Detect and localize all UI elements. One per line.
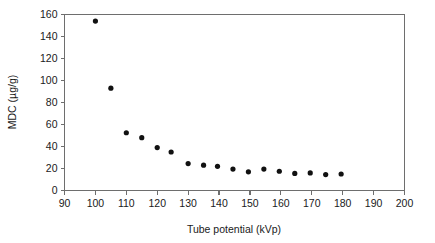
y-tick-label: 120: [40, 52, 58, 64]
scatter-chart: 020406080100120140160 901001101201301401…: [0, 0, 435, 243]
data-point: [308, 170, 313, 175]
x-tick-label: 190: [365, 197, 383, 209]
data-point: [155, 145, 160, 150]
y-tick-label: 0: [52, 184, 58, 196]
x-axis-title: Tube potential (kVp): [187, 223, 281, 235]
data-point: [108, 86, 113, 91]
data-point: [323, 172, 328, 177]
x-tick-label: 180: [334, 197, 352, 209]
y-tick-label: 160: [40, 8, 58, 20]
x-tick-label: 120: [148, 197, 166, 209]
x-tick-label: 130: [179, 197, 197, 209]
x-tick-label: 170: [303, 197, 321, 209]
data-points-layer: [93, 19, 344, 178]
axis-frame-path: [65, 15, 405, 191]
data-point: [215, 164, 220, 169]
data-point: [246, 169, 251, 174]
x-tick-label: 160: [272, 197, 290, 209]
data-point: [93, 19, 98, 24]
y-axis-ticks: 020406080100120140160: [40, 8, 65, 196]
y-tick-label: 80: [46, 96, 58, 108]
data-point: [139, 135, 144, 140]
data-point: [277, 169, 282, 174]
data-point: [169, 149, 174, 154]
x-tick-label: 140: [210, 197, 228, 209]
data-point: [186, 161, 191, 166]
data-point: [201, 163, 206, 168]
x-tick-label: 200: [396, 197, 414, 209]
y-tick-label: 60: [46, 118, 58, 130]
plot-frame: [65, 15, 405, 191]
figure-container: 020406080100120140160 901001101201301401…: [0, 0, 435, 243]
data-point: [292, 171, 297, 176]
x-axis-ticks: 90100110120130140150160170180190200: [59, 191, 414, 209]
y-tick-label: 20: [46, 162, 58, 174]
y-tick-label: 140: [40, 30, 58, 42]
y-axis-title: MDC (µg/g): [6, 75, 18, 129]
x-tick-label: 110: [118, 197, 135, 209]
data-point: [124, 130, 129, 135]
y-tick-label: 100: [40, 74, 58, 86]
data-point: [339, 171, 344, 176]
data-point: [230, 166, 235, 171]
y-tick-label: 40: [46, 140, 58, 152]
data-point: [261, 166, 266, 171]
x-tick-label: 150: [241, 197, 259, 209]
x-tick-label: 90: [59, 197, 71, 209]
x-tick-label: 100: [87, 197, 105, 209]
